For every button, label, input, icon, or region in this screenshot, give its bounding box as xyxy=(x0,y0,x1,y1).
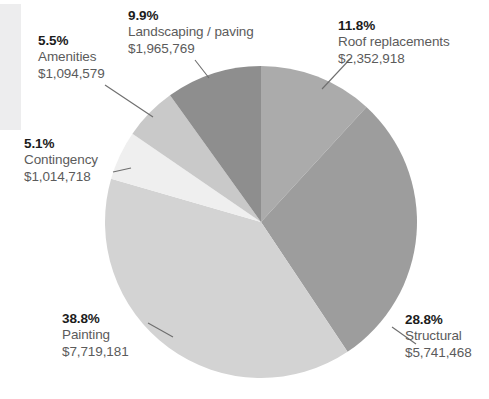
pie-label-roof-category: Roof replacements xyxy=(338,34,450,50)
pie-slice-group xyxy=(105,66,417,378)
pie-label-painting-percent: 38.8% xyxy=(62,311,129,327)
pie-label-roof: 11.8% Roof replacements $2,352,918 xyxy=(338,18,450,67)
pie-label-amenities-percent: 5.5% xyxy=(38,33,105,49)
pie-label-landscaping: 9.9% Landscaping / paving $1,965,769 xyxy=(128,8,254,57)
pie-label-amenities: 5.5% Amenities $1,094,579 xyxy=(38,33,105,82)
pie-label-structural: 28.8% Structural $5,741,468 xyxy=(405,312,472,361)
pie-label-landscaping-value: $1,965,769 xyxy=(128,41,254,57)
pie-label-contingency-percent: 5.1% xyxy=(24,136,98,152)
pie-label-landscaping-category: Landscaping / paving xyxy=(128,24,254,40)
pie-label-structural-percent: 28.8% xyxy=(405,312,472,328)
pie-chart-figure: 9.9% Landscaping / paving $1,965,769 5.5… xyxy=(0,0,489,399)
pie-label-contingency-value: $1,014,718 xyxy=(24,169,98,185)
pie-label-painting-value: $7,719,181 xyxy=(62,344,129,360)
pie-label-roof-percent: 11.8% xyxy=(338,18,450,34)
leader-line-landscaping xyxy=(195,60,209,78)
pie-label-structural-value: $5,741,468 xyxy=(405,345,472,361)
pie-label-amenities-value: $1,094,579 xyxy=(38,66,105,82)
pie-label-painting: 38.8% Painting $7,719,181 xyxy=(62,311,129,360)
pie-label-amenities-category: Amenities xyxy=(38,49,105,65)
pie-label-landscaping-percent: 9.9% xyxy=(128,8,254,24)
pie-label-contingency: 5.1% Contingency $1,014,718 xyxy=(24,136,98,185)
pie-label-structural-category: Structural xyxy=(405,328,472,344)
pie-label-contingency-category: Contingency xyxy=(24,152,98,168)
pie-label-roof-value: $2,352,918 xyxy=(338,51,450,67)
pie-label-painting-category: Painting xyxy=(62,327,129,343)
leader-line-amenities xyxy=(105,85,153,117)
